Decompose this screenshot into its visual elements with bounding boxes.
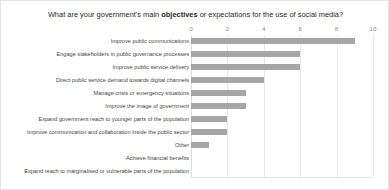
category-label: Improve the image of government (105, 102, 189, 109)
chart-title-prefix: What are your government's main (48, 10, 161, 19)
x-axis-tick-labels: 0246810 (191, 25, 373, 35)
bar-row: Direct public service demand towards dig… (1, 74, 389, 87)
bar-track (191, 61, 373, 74)
bar-track (191, 100, 373, 113)
bar-row: Manage crisis or emergency situations (1, 87, 389, 100)
bar (191, 103, 246, 109)
bar (191, 116, 227, 122)
bar-track (191, 112, 373, 125)
bar-row: Improve the image of government (1, 100, 389, 113)
bar-row: Improve public service delivery (1, 61, 389, 74)
category-label: Engage stakeholders in public governance… (57, 51, 189, 58)
x-tick-label-4: 4 (262, 25, 265, 33)
x-tick-label-0: 0 (189, 25, 192, 33)
bar-track (191, 164, 373, 177)
chart-title-suffix: or expectations for the use of social me… (198, 10, 344, 19)
bar-track (191, 151, 373, 164)
bar-track (191, 138, 373, 151)
bar-rows: Improve public communicationsEngage stak… (1, 35, 389, 177)
bar-track (191, 74, 373, 87)
bar-track (191, 125, 373, 138)
bar (191, 38, 355, 44)
bar-row: Improve public communications (1, 35, 389, 48)
bar-row: Expand government reach to younger parts… (1, 112, 389, 125)
category-label: Improve public service delivery (113, 64, 189, 71)
category-label: Expand government reach to younger parts… (38, 115, 189, 122)
category-label: Other (175, 141, 189, 148)
bar (191, 142, 209, 148)
bar-track (191, 35, 373, 48)
x-tick-label-6: 6 (298, 25, 301, 33)
bar-track (191, 87, 373, 100)
category-label: Achieve financial benefits (126, 154, 189, 161)
category-label: Manage crisis or emergency situations (94, 90, 189, 97)
x-tick-label-10: 10 (370, 25, 377, 33)
bar (191, 51, 300, 57)
category-label: Improve communication and collaboration … (27, 128, 189, 135)
plot-bottom-edge (191, 177, 373, 178)
chart-title: What are your government's main objectiv… (11, 10, 380, 20)
chart-container: What are your government's main objectiv… (0, 0, 389, 190)
chart-title-emphasis: objectives (161, 10, 197, 19)
bar-row: Achieve financial benefits (1, 151, 389, 164)
bar-row: Expand reach to marginalised or vulnerab… (1, 164, 389, 177)
bar (191, 77, 264, 83)
bar-row: Engage stakeholders in public governance… (1, 48, 389, 61)
bar (191, 129, 227, 135)
category-label: Expand reach to marginalised or vulnerab… (24, 167, 189, 174)
category-label: Direct public service demand towards dig… (56, 77, 189, 84)
x-tick-label-2: 2 (226, 25, 229, 33)
category-label: Improve public communications (111, 38, 189, 45)
bar-row: Improve communication and collaboration … (1, 125, 389, 138)
bar (191, 64, 300, 70)
bar (191, 90, 246, 96)
bar-row: Other (1, 138, 389, 151)
x-tick-label-8: 8 (335, 25, 338, 33)
bar-track (191, 48, 373, 61)
